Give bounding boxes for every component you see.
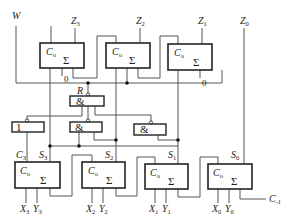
svg-text:&: &	[140, 123, 149, 135]
svg-text:Y0: Y0	[225, 203, 234, 215]
zero-label: 0	[202, 78, 207, 88]
svg-text:Y2: Y2	[99, 203, 108, 215]
svg-text:Σ: Σ	[106, 174, 112, 186]
sum-symbol: Σ	[129, 54, 135, 66]
svg-text:Σ: Σ	[231, 175, 237, 187]
svg-text:Y1: Y1	[162, 203, 171, 215]
w-label: W	[12, 10, 22, 21]
svg-text:S1: S1	[168, 149, 176, 161]
svg-text:X0: X0	[211, 203, 221, 215]
svg-text:C3: C3	[16, 149, 26, 161]
and-gate-2: &	[70, 119, 102, 133]
svg-text:1: 1	[16, 121, 22, 133]
svg-text:S2: S2	[105, 149, 113, 161]
sum-symbol: Σ	[63, 54, 69, 66]
z0-label: Z0	[240, 15, 249, 27]
z3-label: Z3	[71, 15, 80, 27]
or-gate-1: 1	[12, 119, 44, 133]
sum-symbol: Σ	[193, 56, 199, 68]
svg-text:&: &	[75, 121, 84, 133]
svg-text:&: &	[76, 95, 85, 107]
svg-text:S0: S0	[231, 149, 239, 161]
z1-label: Z1	[198, 15, 207, 27]
svg-text:S3: S3	[39, 149, 47, 161]
circuit-diagram: Co Σ 0 Co Σ Co Σ 0 W Z3 Z2 Z1 Z0 R & 1 &	[0, 0, 290, 221]
svg-text:X2: X2	[85, 203, 95, 215]
svg-text:Σ: Σ	[168, 175, 174, 187]
bottom-adder-0: S0 Co Σ X0 Y0 C-1	[208, 149, 281, 215]
bottom-adder-2: S2 Co Σ X2 Y2	[82, 149, 125, 215]
top-adder-2: Co Σ	[106, 43, 150, 68]
bottom-adder-1: S1 Co Σ X1 Y1	[145, 149, 188, 215]
svg-text:Σ: Σ	[40, 174, 46, 186]
top-input-labels: W Z3 Z2 Z1 Z0	[12, 10, 249, 27]
and-gate-3: &	[134, 121, 166, 135]
svg-text:Y3: Y3	[33, 203, 42, 215]
svg-text:X3: X3	[19, 203, 29, 215]
top-adder-3: Co Σ 0	[168, 44, 212, 88]
and-gate-r: R &	[70, 85, 104, 107]
carry-in-label: C-1	[269, 193, 281, 205]
svg-text:X1: X1	[148, 203, 158, 215]
zero-label: 0	[64, 74, 69, 84]
z2-label: Z2	[136, 15, 145, 27]
bottom-adder-3: C3 S3 Co Σ X3 Y3	[15, 149, 60, 215]
